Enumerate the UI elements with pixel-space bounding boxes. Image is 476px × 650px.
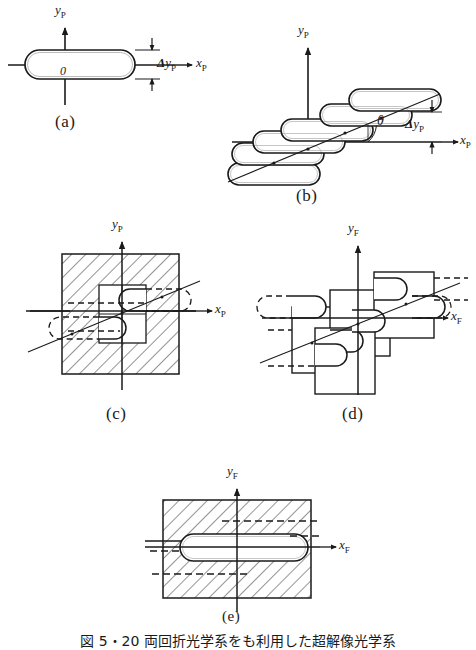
panel-e xyxy=(145,489,336,612)
figure-drawing xyxy=(0,0,476,650)
panel-a-dimension-label: ΔyP xyxy=(157,55,176,73)
panel-label-c: (c) xyxy=(106,404,126,424)
panel-a-x-axis-label: xP xyxy=(196,55,207,73)
panel-label-a: (a) xyxy=(55,112,75,132)
panel-e-y-axis-label: yF xyxy=(227,463,238,481)
panel-a-origin-label: 0 xyxy=(60,64,66,79)
panel-c-x-axis-label: xP xyxy=(215,301,226,319)
panel-c-aperture-upper xyxy=(119,289,146,311)
panel-b-x-axis-label: xP xyxy=(460,132,471,150)
panel-b-apertures xyxy=(228,89,441,185)
panel-e-x-axis-label: xF xyxy=(339,537,350,555)
panel-d-x-axis-label: xF xyxy=(451,308,462,326)
figure-5-20: yP xP 0 ΔyP yP xP θ ΔyP yP xP yF xF yF x… xyxy=(0,0,476,650)
panel-label-e: (e) xyxy=(222,608,240,625)
figure-caption: 図 5・20 両回折光学系をも利用した超解像光学系 xyxy=(0,630,476,650)
panel-d-y-axis-label: yF xyxy=(348,220,359,238)
panel-a-y-axis-label: yP xyxy=(55,2,66,20)
panel-c-y-axis-label: yP xyxy=(112,216,123,234)
panel-a-aperture xyxy=(25,50,135,79)
panel-b-y-axis-label: yP xyxy=(298,22,309,40)
panel-b-dimension-label: ΔyP xyxy=(405,116,424,134)
panel-b-angle-label: θ xyxy=(377,113,384,129)
panel-c xyxy=(26,242,212,390)
panel-label-d: (d) xyxy=(342,404,363,424)
panel-d-cells xyxy=(292,272,434,394)
panel-label-b: (b) xyxy=(296,186,317,206)
panel-d xyxy=(257,246,468,395)
